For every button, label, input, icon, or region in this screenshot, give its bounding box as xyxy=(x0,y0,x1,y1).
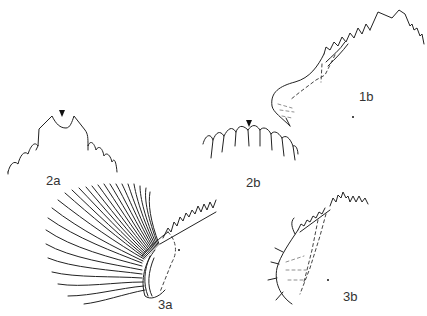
panel-label-3b: 3b xyxy=(343,290,357,303)
panel-label-3a: 3a xyxy=(158,298,172,311)
panel-label-2b: 2b xyxy=(246,176,260,189)
panel-2a-drawing xyxy=(8,110,117,174)
figure-drawings xyxy=(0,0,427,316)
panel-3a-drawing xyxy=(46,184,216,304)
panel-2b-drawing xyxy=(203,120,298,160)
panel-label-2a: 2a xyxy=(46,174,60,187)
panel-3b-drawing xyxy=(268,192,368,304)
panel-1b-drawing xyxy=(272,10,424,126)
figure-plate: 1b 2a 2b 3a 3b xyxy=(0,0,427,316)
panel-label-1b: 1b xyxy=(359,90,373,103)
